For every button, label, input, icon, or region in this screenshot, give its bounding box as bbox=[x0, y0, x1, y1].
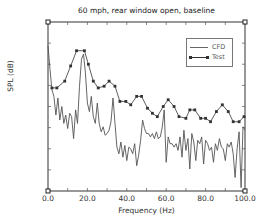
square-marker-icon bbox=[114, 85, 117, 88]
square-marker-icon bbox=[119, 100, 122, 103]
square-marker-icon bbox=[69, 65, 72, 68]
square-marker-icon bbox=[135, 95, 138, 98]
square-marker-icon bbox=[83, 49, 86, 52]
square-marker-icon bbox=[178, 115, 181, 118]
square-marker-icon bbox=[173, 105, 176, 108]
square-marker-icon bbox=[199, 117, 202, 120]
plot-area bbox=[0, 0, 266, 223]
square-marker-icon bbox=[75, 49, 78, 52]
square-marker-icon bbox=[97, 87, 100, 90]
square-marker-icon bbox=[209, 120, 212, 123]
square-marker-icon bbox=[108, 80, 111, 83]
square-marker-icon bbox=[129, 103, 132, 106]
square-marker-icon bbox=[151, 112, 154, 115]
legend-swatch-cfd bbox=[190, 47, 208, 48]
square-marker-icon bbox=[215, 110, 218, 113]
square-marker-icon bbox=[232, 120, 235, 123]
legend: CFD Test bbox=[186, 38, 233, 67]
legend-item-test: Test bbox=[190, 53, 230, 62]
square-marker-icon bbox=[167, 98, 170, 101]
square-marker-icon bbox=[140, 95, 143, 98]
legend-item-cfd: CFD bbox=[190, 43, 230, 52]
square-marker-icon bbox=[55, 87, 58, 90]
square-marker-icon bbox=[238, 120, 241, 123]
legend-label-test: Test bbox=[212, 53, 225, 61]
square-marker-icon bbox=[221, 103, 224, 106]
square-marker-icon bbox=[156, 115, 159, 118]
square-marker-icon bbox=[146, 107, 149, 110]
square-marker-icon bbox=[51, 87, 54, 90]
square-marker-icon bbox=[243, 115, 246, 118]
square-marker-icon bbox=[204, 117, 207, 120]
square-marker-icon bbox=[124, 100, 127, 103]
square-marker-icon bbox=[189, 56, 192, 59]
legend-label-cfd: CFD bbox=[212, 43, 225, 51]
square-marker-icon bbox=[188, 108, 191, 111]
square-marker-icon bbox=[185, 117, 188, 120]
square-marker-icon bbox=[193, 108, 196, 111]
square-marker-icon bbox=[103, 85, 106, 88]
square-marker-icon bbox=[227, 110, 230, 113]
square-marker-icon bbox=[92, 80, 95, 83]
square-marker-icon bbox=[87, 63, 90, 66]
square-marker-icon bbox=[63, 80, 66, 83]
square-marker-icon bbox=[162, 105, 165, 108]
square-marker-icon bbox=[206, 56, 209, 59]
